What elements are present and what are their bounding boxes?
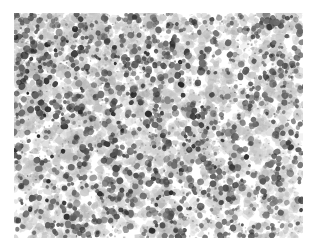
figure-root: Grayscale light-microscopy field of dens…: [0, 0, 318, 251]
micrograph-canvas: [14, 13, 303, 238]
micrograph-image: [14, 13, 303, 238]
